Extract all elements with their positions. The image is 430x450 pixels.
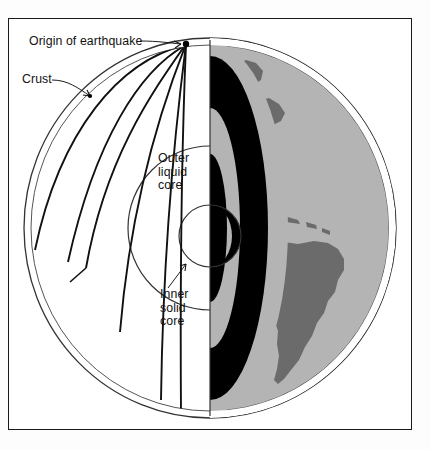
label-inner-core-line-2: solid: [160, 302, 189, 316]
label-inner-solid-core: Inner solid core: [160, 288, 189, 329]
label-inner-core-line-3: core: [160, 315, 189, 329]
label-outer-liquid-core: Outer liquid core: [158, 152, 189, 193]
label-inner-core-line-1: Inner: [160, 288, 189, 302]
figure-canvas: Origin of earthquake Crust Outer liquid …: [0, 0, 430, 450]
label-outer-core-line-3: core: [158, 179, 189, 193]
label-outer-core-line-2: liquid: [158, 166, 189, 180]
earth-cross-section-diagram: [0, 0, 430, 450]
cutaway-interior: [24, 38, 241, 418]
label-origin-of-earthquake: Origin of earthquake: [29, 35, 142, 49]
earthquake-origin-point: [183, 41, 189, 47]
label-outer-core-line-1: Outer: [158, 152, 189, 166]
label-crust: Crust: [22, 73, 52, 87]
crust-leader-dot: [88, 94, 92, 98]
